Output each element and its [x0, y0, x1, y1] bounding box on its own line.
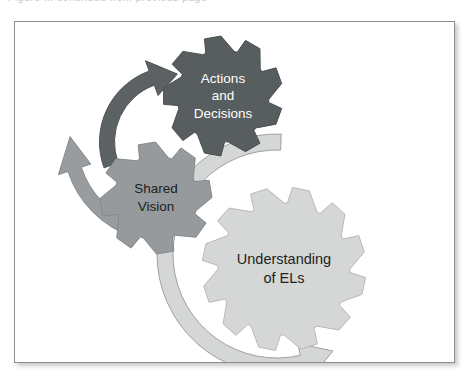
gear-label-line: Shared: [134, 181, 178, 196]
cut-off-header-text: Figure ... continued from previous page: [8, 0, 207, 3]
figure-panel: Understandingof ELs SharedVision Actions…: [14, 21, 455, 363]
gear-label-line: Understanding: [237, 250, 331, 266]
cut-off-header-sliver: Figure ... continued from previous page: [0, 0, 475, 9]
gear-label-line: and: [212, 88, 235, 103]
gear-label-line: Decisions: [194, 105, 253, 120]
gear-label-line: Vision: [138, 198, 175, 213]
gears-cycle-diagram: Understandingof ELs SharedVision Actions…: [15, 22, 454, 362]
gear-understanding-of-els: Understandingof ELs: [202, 187, 365, 350]
gear-label-line: of ELs: [263, 269, 304, 285]
gear-label-line: Actions: [201, 70, 246, 85]
gear-shared-vision: SharedVision: [100, 142, 212, 254]
